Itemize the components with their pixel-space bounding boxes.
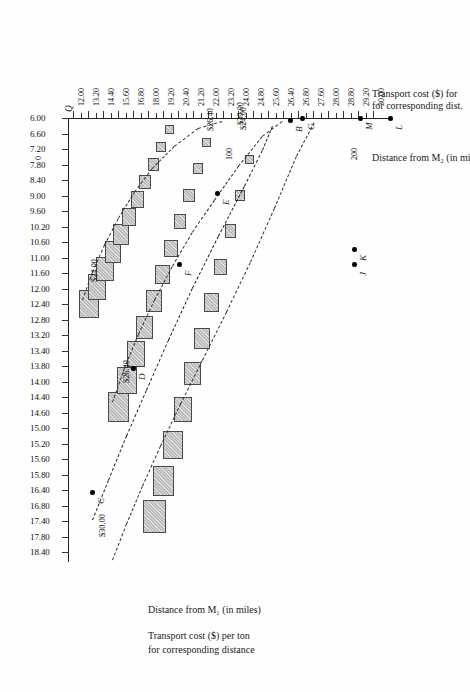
data-point-c: [90, 490, 95, 495]
distance-tick: [62, 490, 69, 491]
distance-m1-caption: Distance from M₁ (in miles): [148, 604, 261, 617]
transport-cost-bottom-line2: for corresponding distance: [148, 644, 255, 657]
cost-tick: [133, 111, 134, 118]
cost-tick: [103, 111, 104, 118]
distance-tick: [62, 413, 69, 414]
cost-tick-label: 28.00: [332, 88, 341, 106]
curve-series-1: [174, 128, 199, 147]
step-series-2: [164, 240, 178, 257]
distance-tick-label: 7.80: [30, 160, 45, 170]
step-series-2: [202, 138, 211, 147]
distance-tick-label: 10.20: [30, 222, 50, 232]
cost-tick-label: 21.20: [197, 88, 206, 106]
cost-tick: [298, 111, 299, 118]
cost-tick: [328, 111, 329, 118]
cost-tick-label: 12.00: [77, 88, 86, 106]
distance-tick: [62, 428, 69, 429]
cost-tick-label: 28.80: [347, 88, 356, 106]
cost-minor-tick: [321, 113, 322, 118]
cost-tick: [283, 111, 284, 118]
step-series-3: [143, 500, 166, 533]
step-series-3: [163, 431, 183, 459]
distance-tick: [62, 366, 69, 367]
cost-tick-label: 18.00: [152, 88, 161, 106]
distance-tick-label: 10.60: [30, 237, 50, 247]
money-label-2640-a: $26.40: [206, 108, 215, 131]
step-series-3: [204, 293, 218, 312]
cost-tick: [163, 111, 164, 118]
distance-tick-label: 7.20: [30, 144, 45, 154]
distance-tick: [62, 335, 69, 336]
cost-minor-tick: [261, 113, 262, 118]
cost-tick-label: 22.00: [212, 88, 221, 106]
cost-tick-label: 29.20: [362, 88, 371, 106]
distance-tick-label: 12.40: [30, 299, 50, 309]
cost-tick-label: 25.60: [272, 88, 281, 106]
transport-cost-bottom-line1: Transport cost ($) per ton: [148, 630, 250, 643]
cost-minor-tick: [276, 113, 277, 118]
cost-minor-tick: [216, 113, 217, 118]
curve-series-2: [262, 121, 283, 137]
distance-tick: [62, 351, 69, 352]
distance-tick: [62, 444, 69, 445]
cost-tick-label: 26.80: [302, 88, 311, 106]
step-series-2: [174, 214, 187, 229]
cost-minor-tick: [231, 113, 232, 118]
distance-tick-label: 12.00: [30, 284, 50, 294]
cost-tick: [343, 111, 344, 118]
distance-tick: [62, 506, 69, 507]
distance-tick: [62, 459, 69, 460]
money-label-2640-b: $26.40: [122, 360, 131, 383]
cost-tick: [268, 111, 269, 118]
distance-axis-line: [68, 118, 69, 562]
distance-tick: [62, 196, 69, 197]
data-point-label-e: E: [221, 199, 231, 205]
cost-tick: [253, 111, 254, 118]
transport-cost-caption-line1: Transport cost ($) for: [372, 88, 457, 101]
distance-tick: [62, 134, 69, 135]
data-point-label-g: G: [306, 123, 316, 130]
distance-tick: [62, 258, 69, 259]
cost-tick: [313, 111, 314, 118]
cost-minor-tick: [141, 113, 142, 118]
distance-tick-label: 11.00: [30, 253, 49, 263]
step-series-1: [148, 158, 159, 171]
cost-minor-tick: [186, 113, 187, 118]
cost-minor-tick: [306, 113, 307, 118]
distance-tick-label: 12.80: [30, 315, 50, 325]
distance-tick: [62, 382, 69, 383]
distance-tick-label: 17.80: [30, 532, 50, 542]
m2-tick-200: 200: [350, 148, 359, 160]
distance-tick-label: 6.00: [30, 113, 45, 123]
cost-tick-label: 13.20: [92, 88, 101, 106]
data-point-label-m: M: [364, 122, 374, 130]
data-point-b: [288, 118, 293, 123]
distance-tick: [62, 320, 69, 321]
distance-tick: [62, 149, 69, 150]
money-label-24-b: $24.00: [90, 259, 99, 282]
data-point-label-f: F: [183, 270, 193, 276]
distance-tick-label: 15.60: [30, 454, 50, 464]
curve-series-3: [250, 208, 275, 262]
distance-tick-label: 15.80: [30, 470, 50, 480]
cost-tick: [118, 111, 119, 118]
distance-tick-label: 14.00: [30, 377, 50, 387]
data-point-label-b: B: [294, 126, 304, 132]
step-series-2: [108, 392, 129, 422]
distance-tick-label: 9.00: [30, 191, 45, 201]
distance-tick: [62, 242, 69, 243]
cost-minor-tick: [351, 113, 352, 118]
money-label-30-a: $30.00: [236, 102, 245, 125]
cost-minor-tick: [96, 113, 97, 118]
distance-tick-label: 13.80: [30, 361, 50, 371]
distance-tick: [62, 537, 69, 538]
cost-tick: [178, 111, 179, 118]
curve-series-3: [112, 524, 127, 560]
distance-tick: [62, 289, 69, 290]
cost-minor-tick: [201, 113, 202, 118]
data-point-k: [352, 247, 357, 252]
cost-tick-label: 24.80: [257, 88, 266, 106]
cost-axis-line: [68, 118, 390, 119]
distance-tick: [62, 304, 69, 305]
data-point-label-k: K: [358, 255, 368, 261]
